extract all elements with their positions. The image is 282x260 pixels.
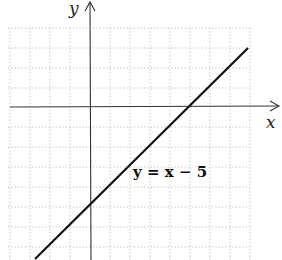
graph-canvas: y x y = x − 5 <box>0 0 282 260</box>
y-axis <box>85 2 95 260</box>
x-axis <box>10 101 279 111</box>
equation-label: y = x − 5 <box>132 163 207 181</box>
y-axis-label: y <box>68 0 79 18</box>
grid <box>8 28 250 260</box>
x-axis-label: x <box>266 112 276 132</box>
